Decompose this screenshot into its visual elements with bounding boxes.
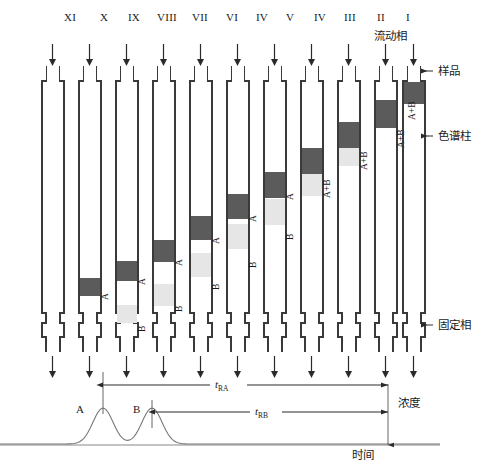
retention-time-a-label: tRA bbox=[215, 379, 228, 394]
peak-label-a: A bbox=[76, 404, 84, 415]
rt-a-subscript: RA bbox=[218, 384, 228, 393]
callout-sample: 样品 bbox=[438, 65, 460, 77]
callout-column: 色谱柱 bbox=[438, 130, 471, 142]
rt-b-subscript: RB bbox=[258, 411, 268, 420]
callout-stationary-phase: 固定相 bbox=[438, 319, 471, 331]
chromatography-separation-diagram: XIXIXVIIIVIIVIIVVIVIIIIII 流动相 AABABABABA… bbox=[0, 0, 485, 472]
chromatogram-svg bbox=[0, 370, 485, 472]
x-axis-label-time: 时间 bbox=[352, 449, 374, 461]
retention-time-b-label: tRB bbox=[255, 406, 268, 421]
column-1-tag-aplusb: A+B bbox=[408, 101, 418, 120]
peak-label-b: B bbox=[133, 404, 140, 415]
y-axis-label-concentration: 浓度 bbox=[398, 397, 420, 409]
chromatogram-plot: A B tRA tRB 浓度 时间 bbox=[0, 370, 485, 472]
